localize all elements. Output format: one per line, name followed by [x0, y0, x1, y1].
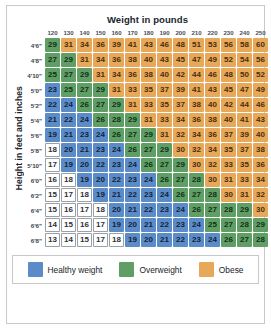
bmi-cell: 24 — [61, 98, 76, 112]
bmi-cell: 21 — [61, 128, 76, 142]
bmi-cell: 27 — [237, 233, 252, 247]
bmi-cell: 36 — [189, 113, 204, 127]
bmi-cell: 31 — [157, 128, 172, 142]
bmi-cell: 24 — [141, 173, 156, 187]
bmi-cell: 20 — [141, 233, 156, 247]
column-header-weight: 170 — [125, 29, 140, 37]
legend: Healthy weightOverweightObese — [12, 255, 259, 284]
bmi-cell: 48 — [173, 38, 188, 52]
bmi-cell: 33 — [125, 83, 140, 97]
bmi-cell: 27 — [173, 173, 188, 187]
bmi-cell: 24 — [189, 218, 204, 232]
bmi-cell: 28 — [189, 173, 204, 187]
row-header-height: 5'0" — [26, 83, 44, 97]
legend-label-healthy: Healthy weight — [48, 265, 103, 275]
bmi-cell: 43 — [253, 113, 268, 127]
bmi-cell: 18 — [61, 173, 76, 187]
bmi-cell: 26 — [189, 203, 204, 217]
row-header-height: 5'8" — [26, 143, 44, 157]
table-row: 6'2"1517181921222324262728303132 — [26, 188, 268, 202]
bmi-cell: 27 — [125, 128, 140, 142]
bmi-cell: 26 — [173, 188, 188, 202]
bmi-cell: 40 — [221, 113, 236, 127]
row-header-height: 4'10" — [26, 68, 44, 82]
bmi-cell: 48 — [221, 68, 236, 82]
bmi-cell: 19 — [109, 218, 124, 232]
row-header-height: 6'8" — [26, 233, 44, 247]
bmi-cell: 27 — [61, 68, 76, 82]
bmi-cell: 34 — [253, 173, 268, 187]
bmi-cell: 43 — [205, 83, 220, 97]
bmi-cell: 32 — [173, 128, 188, 142]
bmi-cell: 26 — [125, 143, 140, 157]
bmi-cell: 40 — [253, 128, 268, 142]
bmi-cell: 33 — [141, 98, 156, 112]
bmi-cell: 22 — [45, 98, 60, 112]
bmi-cell: 31 — [221, 173, 236, 187]
bmi-cell: 36 — [93, 38, 108, 52]
bmi-cell: 39 — [237, 128, 252, 142]
bmi-cell: 47 — [237, 83, 252, 97]
bmi-cell: 56 — [253, 53, 268, 67]
bmi-cell: 33 — [237, 173, 252, 187]
bmi-cell: 35 — [237, 158, 252, 172]
bmi-cell: 39 — [109, 38, 124, 52]
bmi-cell: 27 — [189, 188, 204, 202]
bmi-cell: 33 — [221, 158, 236, 172]
bmi-cell: 14 — [45, 218, 60, 232]
bmi-cell: 17 — [93, 218, 108, 232]
bmi-cell: 23 — [77, 128, 92, 142]
bmi-cell: 41 — [125, 38, 140, 52]
table-row: 4'6"2931343639414346485153565860 — [26, 38, 268, 52]
bmi-cell: 34 — [93, 53, 108, 67]
chart-body: Height in feet and inches 12013014015016… — [12, 28, 259, 248]
bmi-cell: 35 — [157, 98, 172, 112]
bmi-cell: 21 — [125, 203, 140, 217]
legend-label-over: Overweight — [139, 265, 181, 275]
y-axis-label-text: Height in feet and inches — [14, 86, 24, 190]
bmi-cell: 33 — [157, 113, 172, 127]
bmi-cell: 38 — [141, 68, 156, 82]
bmi-cell: 24 — [173, 203, 188, 217]
bmi-cell: 31 — [125, 98, 140, 112]
bmi-cell: 15 — [61, 218, 76, 232]
bmi-cell: 23 — [173, 218, 188, 232]
bmi-cell: 22 — [93, 158, 108, 172]
bmi-cell: 52 — [221, 53, 236, 67]
bmi-cell: 46 — [253, 98, 268, 112]
bmi-cell: 51 — [189, 38, 204, 52]
table-row: 4'8"2729313436384043454749525456 — [26, 53, 268, 67]
table-row: 5'10"1719202223242627293032333536 — [26, 158, 268, 172]
table-row: 5'4"2122242628293133343638404143 — [26, 113, 268, 127]
bmi-cell: 18 — [93, 203, 108, 217]
table-row: 4'10"2527293134363840424446485052 — [26, 68, 268, 82]
bmi-cell: 27 — [141, 143, 156, 157]
bmi-cell: 18 — [45, 143, 60, 157]
bmi-cell: 31 — [141, 113, 156, 127]
column-header-weight: 140 — [77, 29, 92, 37]
bmi-cell: 29 — [173, 158, 188, 172]
column-header-weight: 210 — [189, 29, 204, 37]
bmi-cell: 23 — [93, 143, 108, 157]
bmi-cell: 45 — [221, 83, 236, 97]
bmi-cell: 43 — [141, 38, 156, 52]
bmi-cell: 29 — [93, 83, 108, 97]
bmi-cell: 19 — [93, 188, 108, 202]
legend-swatch-obese — [199, 262, 214, 277]
bmi-cell: 27 — [45, 53, 60, 67]
column-header-weight: 240 — [237, 29, 252, 37]
bmi-cell: 43 — [157, 53, 172, 67]
bmi-cell: 20 — [93, 173, 108, 187]
bmi-cell: 30 — [173, 143, 188, 157]
table-row: 5'8"1820212324262729303234353738 — [26, 143, 268, 157]
bmi-cell: 28 — [109, 113, 124, 127]
bmi-cell: 52 — [253, 68, 268, 82]
bmi-cell: 32 — [253, 188, 268, 202]
bmi-cell: 36 — [109, 53, 124, 67]
row-header-height: 5'6" — [26, 128, 44, 142]
row-header-height: 6'6" — [26, 218, 44, 232]
bmi-cell: 21 — [141, 218, 156, 232]
bmi-cell: 42 — [221, 98, 236, 112]
bmi-cell: 41 — [189, 83, 204, 97]
bmi-cell: 28 — [205, 188, 220, 202]
